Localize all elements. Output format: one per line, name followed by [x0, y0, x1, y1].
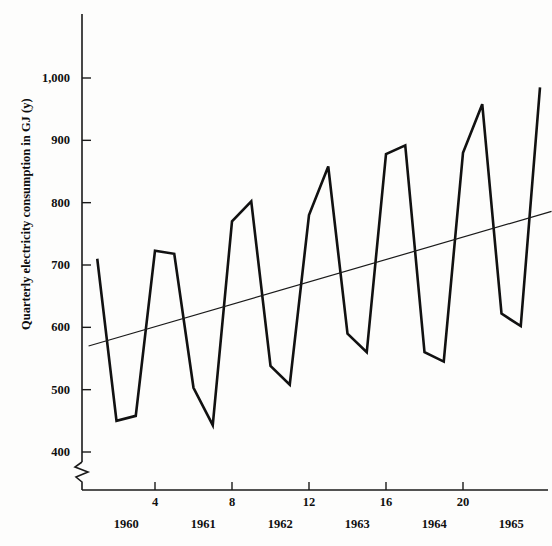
chart-page: Quarterly electricity consumption in GJ … — [0, 0, 552, 546]
x-axis-year-label: 1962 — [268, 517, 293, 531]
x-axis-year-label: 1960 — [114, 517, 139, 531]
y-axis-tick-label: 500 — [51, 383, 70, 397]
y-axis-tick-label: 1,000 — [42, 71, 70, 85]
x-axis-year-label: 1965 — [499, 517, 524, 531]
y-axis-tick-label: 700 — [51, 258, 70, 272]
x-axis-year-label: 1963 — [345, 517, 370, 531]
x-axis-tick-label: 16 — [380, 495, 393, 509]
data-series-line — [97, 87, 540, 425]
y-axis-tick-label: 600 — [51, 320, 70, 334]
chart-series — [89, 87, 552, 425]
x-axis-tick-label: 20 — [457, 495, 470, 509]
x-axis-tick-label: 8 — [229, 495, 235, 509]
y-axis-tick-label: 400 — [51, 445, 70, 459]
x-axis-tick-label: 4 — [152, 495, 159, 509]
chart-axes — [75, 14, 548, 490]
quarterly-electricity-consumption-chart: Quarterly electricity consumption in GJ … — [0, 0, 552, 546]
y-axis-tick-label: 900 — [51, 133, 70, 147]
y-axis-tick-label: 800 — [51, 196, 70, 210]
y-axis-title: Quarterly electricity consumption in GJ … — [19, 98, 33, 330]
y-axis-break-symbol — [75, 462, 88, 490]
chart-tick-labels: 4005006007008009001,00048121620196019611… — [42, 71, 524, 531]
x-axis-tick-label: 12 — [303, 495, 316, 509]
trend-line — [89, 211, 552, 346]
x-axis-year-label: 1961 — [191, 517, 216, 531]
x-axis-year-label: 1964 — [422, 517, 448, 531]
